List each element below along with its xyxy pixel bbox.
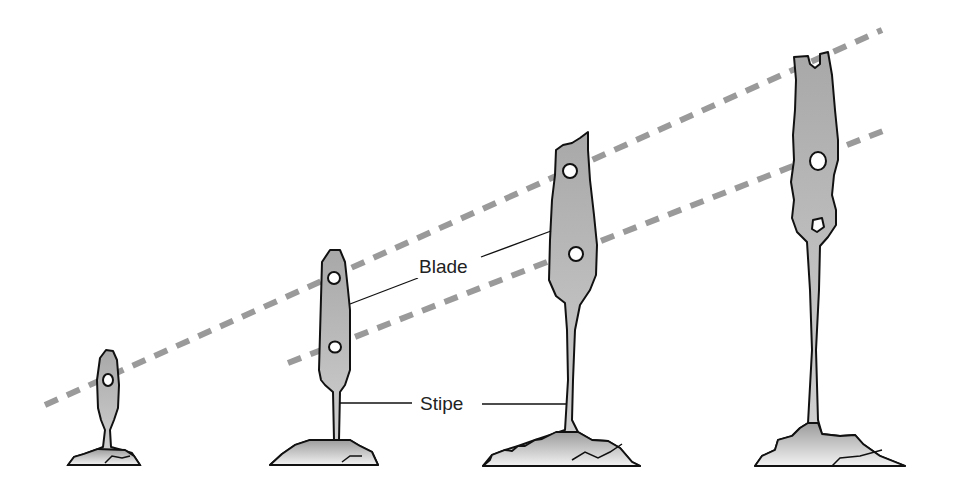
hole (569, 247, 583, 261)
blade-leader-left (350, 278, 418, 304)
upper-growth-line (45, 30, 882, 405)
stipe-label: Stipe (417, 393, 466, 415)
hole (328, 272, 340, 284)
hole (563, 164, 577, 178)
hole (329, 342, 341, 353)
kelp-stage-3 (483, 132, 640, 466)
hole (810, 152, 826, 170)
kelp-stage-1 (68, 350, 140, 465)
kelp-growth-diagram (0, 0, 965, 488)
blade-leader-right (481, 231, 551, 257)
kelp-stage-4 (755, 52, 905, 466)
kelp-stage-2 (270, 250, 378, 465)
hole (103, 374, 113, 386)
blade-label: Blade (416, 256, 471, 278)
